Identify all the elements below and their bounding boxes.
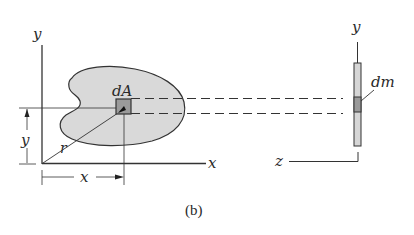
area-element-dA <box>116 99 131 114</box>
x-dimension-label: x <box>80 168 89 186</box>
x-dimension-arrowhead <box>115 175 124 180</box>
y-dimension-arrowhead <box>25 109 30 117</box>
diagram-canvas: y x y x r dA y dm z (b) <box>0 0 414 235</box>
right-y-axis-label: y <box>351 18 361 36</box>
left-y-axis-label: y <box>32 25 42 43</box>
left-x-axis-label: x <box>208 154 217 172</box>
area-element-label: dA <box>112 82 133 100</box>
y-dimension-label: y <box>20 131 30 149</box>
mass-element-label: dm <box>371 73 395 91</box>
mass-element-dm <box>354 97 361 112</box>
dm-leader-line <box>361 90 374 101</box>
right-z-axis-label: z <box>274 152 283 170</box>
figure-caption: (b) <box>185 202 203 219</box>
